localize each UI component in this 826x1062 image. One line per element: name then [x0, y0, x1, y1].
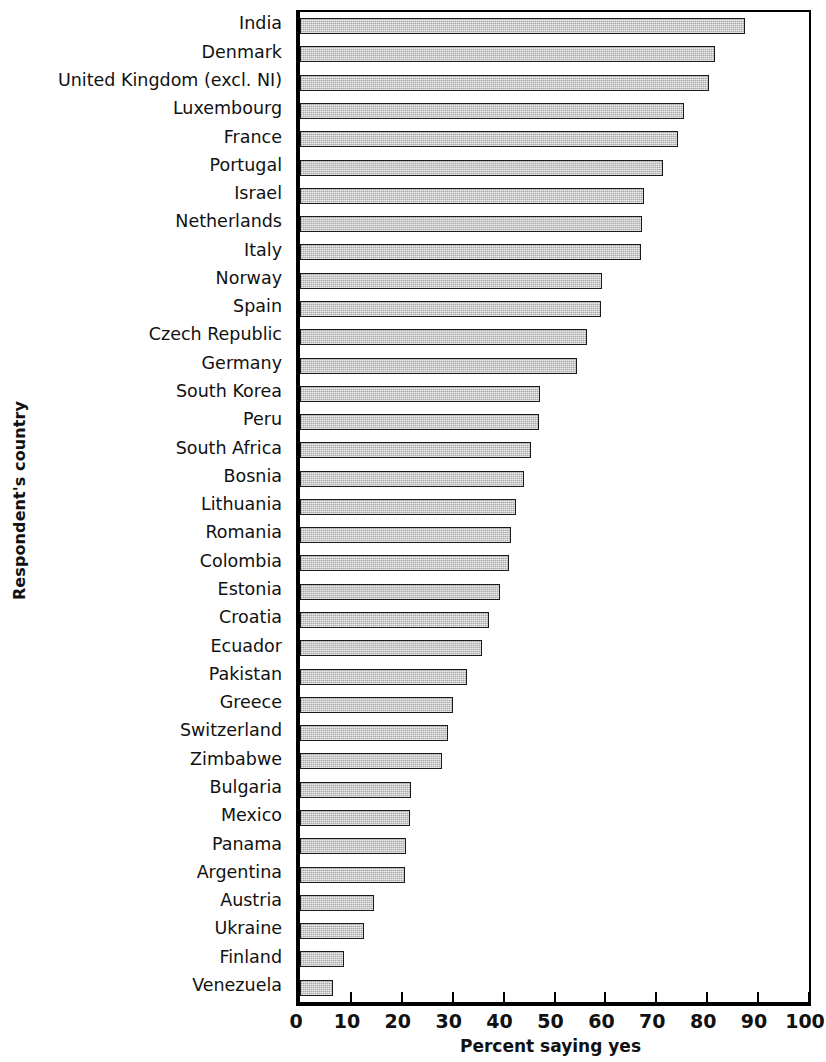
bar	[300, 725, 448, 741]
bar-chart: Respondent's country IndiaDenmarkUnited …	[0, 0, 826, 1062]
category-label: Panama	[40, 830, 290, 858]
bar-row	[300, 832, 809, 860]
x-axis-tick-mark	[554, 992, 556, 1002]
bar-row	[300, 153, 809, 181]
bar	[300, 810, 410, 826]
bar	[300, 951, 344, 967]
x-axis-tick-mark	[706, 992, 708, 1002]
bar-row	[300, 747, 809, 775]
bar	[300, 782, 411, 798]
bar-row	[300, 549, 809, 577]
bar-row	[300, 521, 809, 549]
x-axis-tick-label: 0	[289, 1010, 302, 1032]
bar-row	[300, 380, 809, 408]
x-axis-tick-label: 20	[385, 1010, 411, 1032]
bar	[300, 527, 511, 543]
bar-row	[300, 40, 809, 68]
bar	[300, 442, 531, 458]
bar-row	[300, 945, 809, 973]
bar	[300, 612, 489, 628]
bar	[300, 188, 644, 204]
x-axis-tick-mark	[604, 992, 606, 1002]
category-label: Colombia	[40, 547, 290, 575]
bar-row	[300, 465, 809, 493]
bar-row	[300, 719, 809, 747]
bar-row	[300, 69, 809, 97]
bar	[300, 414, 539, 430]
category-label-list: IndiaDenmarkUnited Kingdom (excl. NI)Lux…	[40, 10, 290, 1000]
x-axis-tick-mark	[350, 992, 352, 1002]
bar	[300, 329, 587, 345]
bar-row	[300, 493, 809, 521]
x-axis-tick-mark	[757, 992, 759, 1002]
category-label: Bosnia	[40, 463, 290, 491]
category-label: Portugal	[40, 151, 290, 179]
category-label: Venezuela	[40, 972, 290, 1000]
bar-row	[300, 125, 809, 153]
plot-area	[296, 10, 811, 1006]
x-axis-tick-mark	[655, 992, 657, 1002]
bar	[300, 867, 405, 883]
category-label: Italy	[40, 236, 290, 264]
bar-row	[300, 97, 809, 125]
category-label: Germany	[40, 349, 290, 377]
bar	[300, 75, 709, 91]
category-label: Norway	[40, 265, 290, 293]
bar-row	[300, 889, 809, 917]
bar-row	[300, 408, 809, 436]
x-axis-tick-label: 90	[741, 1010, 767, 1032]
bar	[300, 499, 516, 515]
bar	[300, 301, 601, 317]
bar	[300, 555, 509, 571]
x-axis-tick-labels: 0102030405060708090100	[296, 1010, 805, 1036]
category-label: Zimbabwe	[40, 745, 290, 773]
bar	[300, 18, 745, 34]
category-label: Croatia	[40, 604, 290, 632]
bar-row	[300, 691, 809, 719]
x-axis-title: Percent saying yes	[296, 1036, 805, 1056]
category-label: France	[40, 123, 290, 151]
category-label: South Korea	[40, 378, 290, 406]
x-axis-tick-mark	[401, 992, 403, 1002]
x-axis-tick-label: 60	[588, 1010, 614, 1032]
bar-row	[300, 323, 809, 351]
category-label: Austria	[40, 887, 290, 915]
bar	[300, 46, 715, 62]
bar-row	[300, 267, 809, 295]
category-label: Czech Republic	[40, 321, 290, 349]
bar	[300, 131, 678, 147]
bar-series	[300, 12, 809, 1002]
category-label: Estonia	[40, 576, 290, 604]
bar-row	[300, 238, 809, 266]
bar	[300, 584, 500, 600]
bar-row	[300, 606, 809, 634]
y-axis-title-text: Respondent's country	[11, 400, 30, 599]
bar	[300, 471, 524, 487]
category-label: Argentina	[40, 858, 290, 886]
bar-row	[300, 578, 809, 606]
category-label: Romania	[40, 519, 290, 547]
bar	[300, 103, 684, 119]
bar-row	[300, 917, 809, 945]
x-axis-tick-label: 10	[334, 1010, 360, 1032]
bar-row	[300, 662, 809, 690]
bar-row	[300, 776, 809, 804]
category-label: India	[40, 10, 290, 38]
bar	[300, 216, 642, 232]
category-label: Finland	[40, 943, 290, 971]
x-axis-tick-label: 80	[690, 1010, 716, 1032]
y-axis-title: Respondent's country	[0, 0, 40, 1000]
bar-row	[300, 182, 809, 210]
bar-row	[300, 804, 809, 832]
category-label: Ukraine	[40, 915, 290, 943]
bar-row	[300, 634, 809, 662]
bar	[300, 640, 482, 656]
category-label: Israel	[40, 180, 290, 208]
bar-row	[300, 351, 809, 379]
category-label: Greece	[40, 689, 290, 717]
category-label: Bulgaria	[40, 774, 290, 802]
bar	[300, 923, 364, 939]
bar	[300, 160, 663, 176]
category-label: Lithuania	[40, 491, 290, 519]
category-label: South Africa	[40, 434, 290, 462]
